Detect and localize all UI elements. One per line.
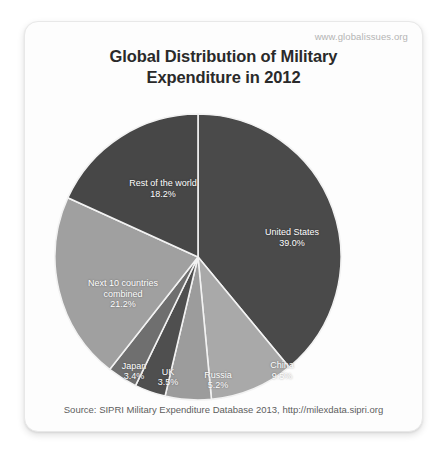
pie-chart-svg bbox=[53, 112, 343, 402]
source-note: Source: SIPRI Military Expenditure Datab… bbox=[25, 404, 422, 415]
chart-card: www.globalissues.org Global Distribution… bbox=[24, 21, 423, 432]
pie-slices bbox=[55, 114, 341, 400]
pie-chart: United States 39.0% China 9.5% Russia 5.… bbox=[25, 22, 423, 432]
